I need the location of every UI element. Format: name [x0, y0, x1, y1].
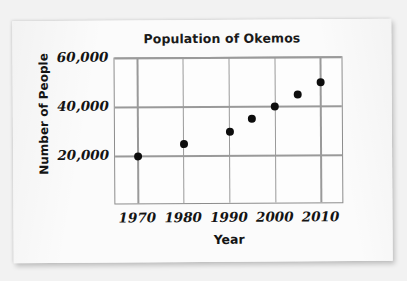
data-point — [225, 127, 233, 135]
y-axis-tick-label: 40,000 — [17, 98, 109, 115]
y-axis-tick-label: 60,000 — [16, 49, 108, 66]
paper-surface: Population of Okemos Number of People 20… — [12, 19, 392, 263]
data-point — [317, 78, 325, 86]
plot-area — [113, 56, 343, 204]
x-axis-tick-label: 2010 — [286, 208, 356, 224]
data-point — [271, 103, 279, 111]
chart-title: Population of Okemos — [12, 30, 391, 47]
x-axis-title: Year — [115, 231, 344, 247]
data-point — [134, 152, 142, 160]
chart-figure: Population of Okemos Number of People 20… — [12, 19, 392, 263]
data-point — [294, 90, 302, 98]
data-point — [180, 140, 188, 148]
data-point — [248, 115, 256, 123]
y-axis-tick-labels: 20,00040,00060,000 — [12, 58, 109, 206]
horizontal-gridlines — [114, 57, 341, 58]
gridline-vertical — [182, 58, 184, 203]
gridline-vertical — [274, 58, 276, 203]
gridline-vertical — [137, 58, 139, 203]
scanned-paper-sheet: Population of Okemos Number of People 20… — [12, 19, 392, 263]
x-axis-tick-labels: 19701980199020002010 — [114, 208, 343, 231]
y-axis-tick-label: 20,000 — [17, 147, 109, 164]
